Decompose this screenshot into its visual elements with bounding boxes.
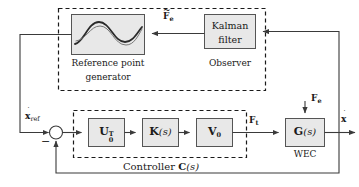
- u0t-block-label: U T 0: [88, 126, 125, 137]
- summing-junction: [50, 126, 63, 139]
- kalman-filter-label-line2: filter: [205, 35, 255, 45]
- v0-block-label: V0: [196, 126, 233, 137]
- signal-label-fe: Fe: [311, 94, 322, 103]
- plant-caption: WEC: [285, 150, 325, 159]
- sum-negative-sign: −: [41, 136, 50, 147]
- ks-block-label: K(s): [142, 126, 179, 137]
- wire-measurement-to-kalman: [263, 32, 339, 133]
- block-diagram-figure: Reference point generator Kalman filter …: [0, 0, 359, 187]
- signal-label-ft: Ft: [249, 116, 258, 125]
- kalman-filter-label-line1: Kalman: [205, 21, 255, 31]
- signal-label-xref: ˙ xref: [25, 112, 40, 121]
- reference-generator-block: [72, 15, 145, 55]
- plant-block-label: G(s): [285, 126, 325, 137]
- reference-generator-caption-line2: generator: [60, 73, 156, 82]
- signal-label-fe-hat: ~ Fe: [163, 12, 174, 21]
- signal-label-x-out: ˙ x: [341, 115, 346, 124]
- controller-group-caption: Controller C(s): [96, 162, 226, 172]
- x-out-accent: ˙ x: [341, 115, 346, 124]
- observer-group-caption: Observer: [196, 59, 264, 68]
- reference-generator-caption-line1: Reference point: [60, 59, 156, 68]
